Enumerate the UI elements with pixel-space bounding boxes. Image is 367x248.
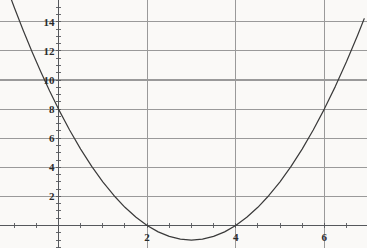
y-tick-label-10: 10 xyxy=(44,75,55,86)
horizontal-gridlines xyxy=(0,22,367,197)
y-tick-label-4: 4 xyxy=(49,162,55,173)
x-tick-label-6: 6 xyxy=(322,232,328,243)
y-tick-label-2: 2 xyxy=(49,191,55,202)
y-tick-label-12: 12 xyxy=(44,45,55,56)
parabola-plot xyxy=(0,0,367,248)
y-tick-label-8: 8 xyxy=(49,104,55,115)
x-tick-label-2: 2 xyxy=(144,232,150,243)
y-tick-label-6: 6 xyxy=(49,133,55,144)
y-tick-label-14: 14 xyxy=(44,16,55,27)
vertical-gridlines xyxy=(147,0,324,248)
chart-figure: 2468101214246 xyxy=(0,0,367,248)
x-tick-label-4: 4 xyxy=(233,232,239,243)
